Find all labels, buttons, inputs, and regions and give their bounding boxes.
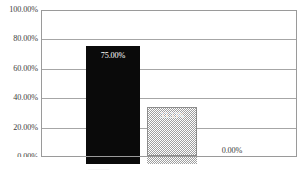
gridline-40: [42, 98, 296, 99]
bar-chart: 100.00% 80.00% 60.00% 40.00% 20.00% 0.00…: [0, 0, 305, 174]
y-axis-tick-label-100: 100.00%: [0, 5, 38, 14]
page-artifact: .................: [88, 166, 109, 171]
bar-2-value-label: 33.33%: [147, 111, 197, 121]
y-axis-tick-label-80: 80.00%: [0, 34, 38, 43]
plot-area: 75.00% 33.33% 0.00%: [41, 10, 297, 157]
bar-bottom-bleed: .................: [0, 157, 305, 174]
y-axis-tick-label-20: 20.00%: [0, 123, 38, 132]
bar-3-value-label: 0.00%: [206, 146, 258, 156]
gridline-60: [42, 69, 296, 70]
bar-1-bleed: [86, 157, 140, 164]
bar-1[interactable]: [86, 46, 140, 156]
gridline-80: [42, 39, 296, 40]
bar-1-value-label: 75.00%: [86, 51, 140, 61]
y-axis-tick-label-40: 40.00%: [0, 93, 38, 102]
bar-2-bleed: [147, 157, 197, 164]
y-axis-tick-label-60: 60.00%: [0, 64, 38, 73]
